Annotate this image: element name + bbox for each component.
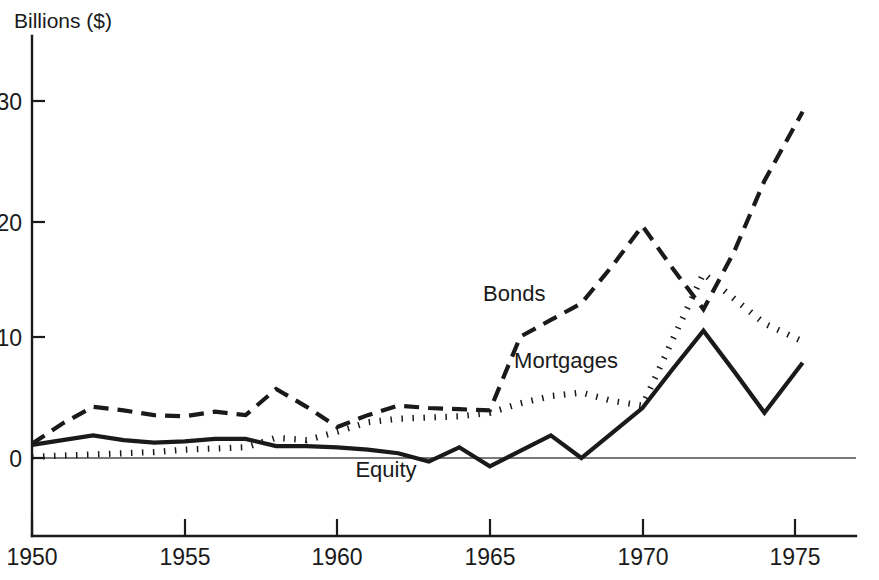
series-line-equity <box>32 331 803 467</box>
y-axis-tick-labels: 0 10 20 30 <box>0 89 22 472</box>
chart-container: Billions ($) 0 10 20 30 19 <box>0 0 879 580</box>
y-axis-ticks <box>32 101 45 458</box>
series-label-bonds: Bonds <box>483 281 545 306</box>
x-axis-ticks <box>32 519 795 536</box>
y-tick-label-10: 10 <box>0 325 22 351</box>
line-chart: Billions ($) 0 10 20 30 19 <box>0 0 879 580</box>
y-tick-label-0: 0 <box>9 446 22 472</box>
x-axis-tick-labels: 1950 1955 1960 1965 1970 1975 <box>6 544 820 570</box>
series-label-equity: Equity <box>355 457 416 482</box>
series-line-mortgages <box>32 274 803 457</box>
x-tick-label-1975: 1975 <box>769 544 820 570</box>
data-series-group <box>32 112 803 467</box>
x-tick-label-1960: 1960 <box>311 544 362 570</box>
series-label-mortgages: Mortgages <box>514 348 618 373</box>
x-tick-label-1955: 1955 <box>159 544 210 570</box>
y-tick-label-20: 20 <box>0 210 22 236</box>
x-tick-label-1965: 1965 <box>464 544 515 570</box>
y-axis-caption: Billions ($) <box>14 9 112 32</box>
series-line-bonds <box>32 112 803 444</box>
y-tick-label-30: 30 <box>0 89 22 115</box>
x-tick-label-1950: 1950 <box>6 544 57 570</box>
x-tick-label-1970: 1970 <box>617 544 668 570</box>
